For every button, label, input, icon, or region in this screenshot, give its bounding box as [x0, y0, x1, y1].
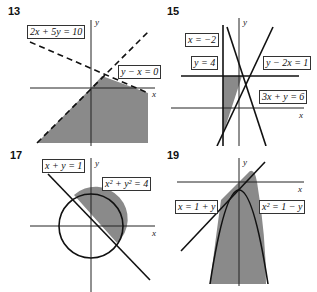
x-axis-label: x: [152, 89, 156, 99]
panel-17: 17 y x x + y = 1 x² + y² = 4: [0, 146, 158, 292]
graph-19: [159, 146, 317, 292]
panel-15: 15 y x x = −2 y = 4 y − 2x = 1 3x + y = …: [159, 0, 317, 146]
equation-label: 2x + 5y = 10: [27, 25, 85, 39]
y-axis-label: y: [95, 17, 99, 27]
equation-label: x = −2: [185, 33, 219, 47]
y-axis-label: y: [243, 157, 247, 167]
x-axis-label: x: [299, 110, 303, 120]
equation-label: x = 1 + y: [175, 200, 218, 214]
equation-label: x² + y² = 4: [102, 177, 151, 191]
x-axis-label: x: [152, 228, 156, 238]
equation-label: y − x = 0: [118, 65, 161, 79]
x-axis-label: x: [298, 184, 302, 194]
panel-19: 19 y x x = 1 + y x² = 1 − y: [159, 146, 317, 292]
panel-13: 13 y x 2x + 5y = 10 y − x = 0: [0, 0, 158, 146]
equation-label: x + y = 1: [42, 159, 85, 173]
equation-label: y − 2x = 1: [263, 56, 311, 70]
graph-15: [159, 0, 317, 146]
equation-label: x² = 1 − y: [259, 200, 305, 214]
y-axis-label: y: [95, 158, 99, 168]
equation-label: 3x + y = 6: [259, 90, 307, 104]
equation-label: y = 4: [191, 56, 218, 70]
y-axis-label: y: [243, 17, 247, 27]
